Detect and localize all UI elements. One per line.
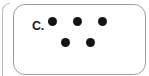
answer-option-panel[interactable]: C. xyxy=(13,4,146,75)
adjacent-panel-edge xyxy=(2,3,10,76)
panel-label: C. xyxy=(32,19,44,33)
figure-panel-c: C. xyxy=(0,0,149,76)
